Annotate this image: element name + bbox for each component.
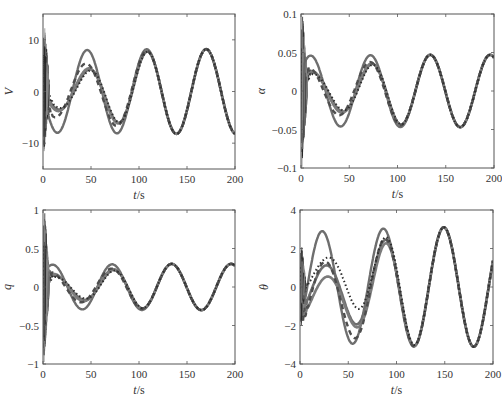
series-solid-large	[43, 225, 235, 313]
y-axis-label: V	[2, 86, 16, 95]
y-tick-label: −4	[284, 358, 296, 370]
x-axis-label: t/s	[391, 383, 403, 397]
y-axis-label: θ	[257, 284, 271, 290]
y-tick-label: 0	[34, 281, 40, 293]
x-tick-label: 200	[227, 173, 244, 185]
y-tick-label: 4	[291, 204, 297, 216]
series-solid-large	[43, 38, 235, 134]
series-solid-large	[301, 29, 494, 127]
y-tick-label: 0.05	[278, 47, 298, 59]
y-tick-label: −0.1	[277, 162, 297, 174]
x-tick-label: 200	[227, 368, 244, 380]
y-tick-label: −10	[22, 137, 40, 149]
x-tick-label: 100	[131, 368, 148, 380]
subplot-alpha: 050100150200−0.1−0.0500.050.1t/sα	[254, 8, 502, 201]
axes-frame	[43, 210, 235, 364]
y-tick-label: −1	[27, 358, 39, 370]
x-tick-label: 200	[485, 368, 502, 380]
x-axis-label: t/s	[133, 383, 145, 397]
x-tick-label: 0	[297, 368, 303, 380]
y-tick-label: 2	[291, 243, 297, 255]
y-axis-label: q	[0, 284, 14, 290]
x-tick-label: 50	[344, 172, 356, 184]
y-tick-label: 0.1	[283, 8, 297, 20]
figure: 050100150200−10010t/sV 050100150200−0.1−…	[0, 0, 502, 404]
y-tick-label: 0	[292, 85, 298, 97]
x-tick-label: 100	[388, 368, 405, 380]
x-axis-label: t/s	[133, 188, 145, 202]
subplot-theta: 050100150200−4−2024t/sθ	[257, 204, 502, 397]
x-tick-label: 0	[298, 172, 304, 184]
series-dotted	[43, 245, 235, 328]
x-tick-label: 150	[179, 173, 196, 185]
x-tick-label: 50	[86, 173, 98, 185]
y-tick-label: 0	[34, 86, 40, 98]
y-tick-label: −2	[284, 320, 296, 332]
x-tick-label: 0	[40, 368, 46, 380]
plot-area	[43, 28, 235, 151]
subplot-v: 050100150200−10010t/sV	[2, 14, 244, 202]
series-solid-mid-1	[301, 55, 494, 130]
x-tick-label: 100	[131, 173, 148, 185]
x-axis-label: t/s	[392, 187, 404, 201]
y-tick-label: −0.5	[19, 320, 39, 332]
y-tick-label: 1	[34, 204, 40, 216]
x-tick-label: 50	[86, 368, 98, 380]
y-tick-label: 0.5	[25, 243, 39, 255]
plot-area	[43, 213, 235, 362]
y-tick-label: −0.05	[272, 124, 298, 136]
y-tick-label: 0	[291, 281, 297, 293]
x-tick-label: 0	[40, 173, 46, 185]
x-tick-label: 150	[438, 172, 455, 184]
plot-area	[300, 227, 493, 346]
axes-frame	[300, 210, 493, 364]
x-tick-label: 150	[437, 368, 454, 380]
x-tick-label: 100	[389, 172, 406, 184]
plot-area	[301, 17, 494, 167]
series-dotted	[301, 48, 494, 131]
subplot-q: 050100150200−1−0.500.51t/sq	[0, 204, 244, 397]
y-axis-label: α	[254, 87, 268, 94]
axes-frame	[301, 14, 494, 168]
series-solid-large	[300, 227, 493, 346]
x-tick-label: 200	[486, 172, 502, 184]
y-tick-label: 10	[28, 34, 40, 46]
x-tick-label: 50	[343, 368, 355, 380]
x-tick-label: 150	[179, 368, 196, 380]
